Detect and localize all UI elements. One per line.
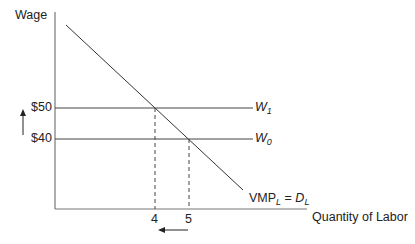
- x-axis-label: Quantity of Labor: [312, 210, 408, 224]
- wage-label-50: $50: [31, 100, 52, 114]
- y-axis-label: Wage: [15, 8, 47, 22]
- q-tick-5: 5: [185, 212, 192, 226]
- q-tick-4: 4: [151, 212, 158, 226]
- w1-label: W1: [255, 100, 272, 116]
- wage-label-40: $40: [31, 131, 52, 145]
- labor-demand-diagram: [0, 0, 415, 244]
- wage-up-arrow: [20, 109, 26, 135]
- quantity-left-arrow: [158, 227, 188, 233]
- w0-label: W0: [255, 131, 272, 147]
- demand-curve-label: VMPL = DL: [249, 191, 309, 207]
